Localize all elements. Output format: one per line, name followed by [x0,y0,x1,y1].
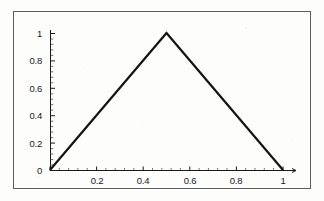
y-tick-label-0-6: 0.6 [14,83,42,94]
plot-canvas [0,0,324,201]
data-series-tent-function [50,33,283,170]
x-tick-label-0-4: 0.4 [132,175,154,186]
figure-container: 1 0.8 0.6 0.4 0.2 0 0.2 0.4 0.6 0.8 1 [0,0,324,201]
y-tick-label-0-4: 0.4 [14,110,42,121]
y-axis-major-ticks [51,34,56,171]
y-axis [51,30,56,171]
y-tick-label-0: 0 [18,165,42,176]
x-axis-major-ticks [50,167,283,171]
y-tick-label-0-2: 0.2 [14,138,42,149]
y-tick-label-1: 1 [18,28,42,39]
x-tick-label-1: 1 [276,175,290,186]
x-tick-label-0-6: 0.6 [179,175,201,186]
x-tick-label-0-2: 0.2 [86,175,108,186]
x-axis [50,167,296,173]
y-tick-label-0-8: 0.8 [14,55,42,66]
x-tick-label-0-8: 0.8 [225,175,247,186]
